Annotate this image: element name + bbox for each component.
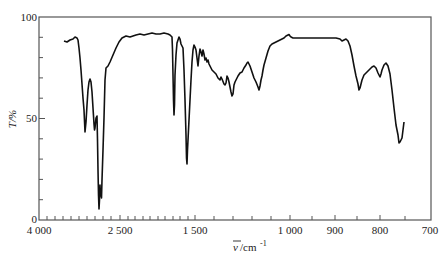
x-tick-4000: 4 000: [27, 224, 52, 236]
x-axis-title: ν /cm -1: [233, 239, 267, 253]
x-axis-ticks: [47, 215, 405, 220]
y-tick-50: 50: [26, 112, 38, 124]
ir-spectrum-chart: 100 50 0 T/% 4 000 2 500 1 500 1 000 900…: [0, 0, 446, 256]
svg-text:/cm: /cm: [240, 241, 257, 253]
svg-text:-1: -1: [260, 239, 267, 248]
x-tick-800: 800: [372, 224, 389, 236]
x-tick-700: 700: [422, 224, 439, 236]
x-tick-2500: 2 500: [108, 224, 133, 236]
y-tick-100: 100: [21, 11, 38, 23]
x-tick-1500: 1 500: [183, 224, 208, 236]
svg-text:ν: ν: [233, 241, 238, 253]
spectrum-trace: [64, 33, 404, 209]
y-axis-title: T/%: [6, 110, 18, 128]
x-tick-900: 900: [327, 224, 344, 236]
x-tick-1000: 1 000: [278, 224, 303, 236]
y-axis-ticks: [39, 37, 45, 199]
